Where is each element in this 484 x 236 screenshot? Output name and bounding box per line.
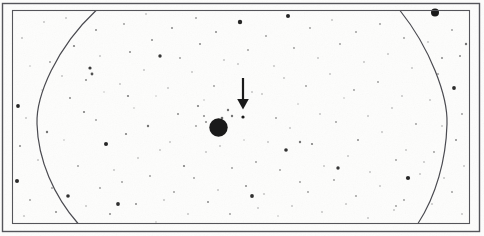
star-point <box>379 23 381 25</box>
star-point <box>129 51 131 53</box>
star-point <box>55 211 57 213</box>
star-point <box>461 213 463 215</box>
star-point <box>291 205 293 207</box>
star-point <box>336 166 339 169</box>
star-point <box>99 55 101 57</box>
star-point <box>73 45 75 47</box>
star-point <box>333 179 335 181</box>
star-point <box>357 139 359 141</box>
star-point <box>167 87 169 89</box>
star-point <box>158 54 161 57</box>
star-point <box>393 209 395 211</box>
star-point <box>247 49 249 51</box>
star-point <box>195 125 197 127</box>
star-point <box>16 104 20 108</box>
star-point <box>335 121 337 123</box>
star-point <box>443 177 445 179</box>
star-point <box>321 211 323 213</box>
star-point <box>205 121 207 123</box>
star-point <box>147 125 149 127</box>
star-point <box>51 187 53 189</box>
star-point <box>451 191 453 193</box>
star-point <box>43 21 45 23</box>
star-point <box>203 99 204 100</box>
star-point <box>183 165 185 167</box>
star-point <box>177 113 179 115</box>
star-point <box>391 107 393 109</box>
star-point <box>367 115 369 117</box>
star-point <box>203 115 205 117</box>
star-point <box>419 173 421 175</box>
star-point <box>345 203 347 205</box>
star-point <box>455 139 457 141</box>
star-point <box>395 159 397 161</box>
star-point <box>319 113 321 115</box>
star-point <box>459 55 461 57</box>
star-point <box>284 148 288 152</box>
star-point <box>21 37 23 39</box>
star-point <box>66 194 70 198</box>
star-point <box>85 79 87 81</box>
star-point <box>283 77 285 79</box>
star-point <box>99 187 101 189</box>
star-point <box>289 127 291 129</box>
star-point <box>257 207 259 209</box>
star-point <box>243 139 244 140</box>
star-point <box>273 65 275 67</box>
star-point <box>331 19 333 21</box>
target-star-marker <box>241 115 244 118</box>
star-point <box>29 199 31 201</box>
star-point <box>245 185 247 187</box>
star-point <box>363 61 365 63</box>
star-point <box>155 221 156 222</box>
star-point <box>307 191 309 193</box>
star-point <box>255 161 257 163</box>
star-point <box>193 177 195 179</box>
star-point <box>377 81 379 83</box>
star-point <box>46 131 48 133</box>
star-point <box>95 119 97 121</box>
star-point <box>137 157 139 159</box>
star-point <box>387 53 389 55</box>
star-point <box>155 95 156 96</box>
star-point <box>297 103 298 104</box>
star-point <box>403 199 405 201</box>
star-point <box>143 69 145 71</box>
star-point <box>441 57 443 59</box>
star-point <box>145 13 147 15</box>
star-point <box>347 155 349 157</box>
star-point <box>381 131 383 133</box>
star-point <box>37 159 39 161</box>
star-point <box>343 97 344 98</box>
star-point <box>133 107 134 108</box>
star-point <box>15 179 19 183</box>
star-point <box>191 71 193 73</box>
star-point <box>83 111 85 113</box>
star-point <box>403 37 405 39</box>
star-point <box>461 113 463 115</box>
star-point <box>433 151 435 153</box>
star-point <box>77 165 79 167</box>
star-point <box>395 205 397 207</box>
photographic-plate-image <box>0 0 484 236</box>
star-point <box>88 66 91 69</box>
star-point <box>329 73 331 75</box>
star-point <box>219 145 221 147</box>
star-point <box>406 176 410 180</box>
star-point <box>405 149 407 151</box>
star-point <box>65 17 67 19</box>
star-point <box>205 151 207 153</box>
star-point <box>305 85 307 87</box>
star-point <box>19 145 21 147</box>
star-point <box>238 20 242 24</box>
star-point <box>227 109 229 111</box>
star-point <box>116 202 120 206</box>
star-point <box>451 29 453 31</box>
star-point <box>187 213 189 215</box>
star-point <box>286 14 290 18</box>
star-point <box>452 86 456 90</box>
star-point <box>217 189 219 191</box>
star-point <box>423 161 425 163</box>
star-point <box>135 203 137 205</box>
star-point <box>465 43 467 45</box>
